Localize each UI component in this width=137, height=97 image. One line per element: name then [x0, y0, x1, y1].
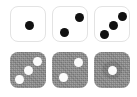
- pip-1: [108, 66, 117, 75]
- pip-2: [60, 28, 69, 37]
- die-tile-r2c2[interactable]: [52, 52, 88, 88]
- pip-1: [74, 58, 83, 67]
- pip-1: [75, 13, 84, 22]
- pip-1: [25, 21, 34, 30]
- dice-grid-canvas: [0, 0, 137, 97]
- pip-2: [24, 66, 33, 75]
- pip-2: [59, 73, 68, 82]
- pip-1: [118, 12, 127, 21]
- die-tile-r1c2[interactable]: [52, 6, 88, 42]
- pip-3: [15, 75, 24, 84]
- die-tile-r1c3[interactable]: [94, 6, 130, 42]
- pip-1: [33, 57, 42, 66]
- pip-3: [100, 30, 109, 39]
- die-tile-r2c1[interactable]: [10, 52, 46, 88]
- die-tile-r2c3[interactable]: [94, 52, 130, 88]
- pip-2: [109, 21, 118, 30]
- die-tile-r1c1[interactable]: [10, 6, 46, 42]
